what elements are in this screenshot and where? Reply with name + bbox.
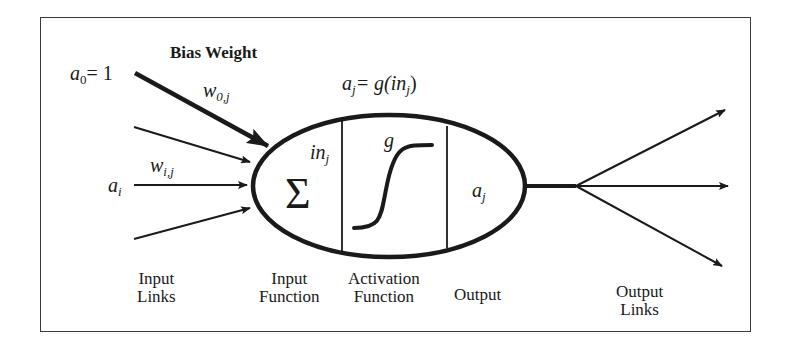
input-function-label: Input Function (259, 270, 319, 306)
activation-equation: aj= g(inj) (342, 73, 417, 100)
output-links-line-1: Output (616, 283, 663, 301)
bias-weight-sub: 0,j (216, 89, 229, 104)
input-links-line-2: Links (137, 288, 176, 306)
eq-end: ) (410, 72, 417, 94)
bias-input-var: a (70, 62, 80, 84)
activation-function-label: Activation Function (348, 270, 420, 306)
net-input-label: inj (310, 142, 329, 169)
output-link-arrow-1 (576, 110, 725, 186)
input-links-line-1: Input (137, 270, 176, 288)
input-weight-sub: i,j (163, 164, 173, 179)
bias-weight-label: w0,j (203, 80, 230, 107)
bias-weight-arrow (135, 73, 268, 146)
net-input-var: in (310, 141, 326, 163)
input-activation-var: a (108, 174, 118, 196)
input-function-line-1: Input (259, 270, 319, 288)
bias-input-eq: = 1 (87, 62, 113, 84)
activation-function-line-2: Function (348, 288, 420, 306)
input-activation-sub: i (118, 184, 122, 199)
eq-lhs-var: a (342, 72, 352, 94)
activation-function-symbol: g (384, 130, 394, 150)
sigmoid-curve-icon (354, 145, 432, 228)
input-weight-label: wi,j (150, 155, 174, 182)
input-weight-var: w (150, 154, 163, 176)
output-var: a (472, 179, 482, 201)
output-activation-label: aj (472, 180, 486, 207)
input-links-label: Input Links (137, 270, 176, 306)
input-activation-label: ai (108, 175, 122, 202)
output-links-line-2: Links (616, 301, 663, 319)
summation-icon: Σ (285, 172, 311, 216)
output-link-arrow-3 (576, 186, 722, 266)
input-link-arrow-3 (134, 208, 250, 239)
output-label: Output (454, 286, 501, 304)
output-sub: j (482, 189, 486, 204)
net-input-sub: j (326, 151, 330, 166)
input-function-line-2: Function (259, 288, 319, 306)
output-links-label: Output Links (616, 283, 663, 319)
activation-function-line-1: Activation (348, 270, 420, 288)
eq-mid: = g(in (356, 72, 407, 94)
bias-weight-title: Bias Weight (170, 44, 257, 62)
bias-input-label: a0= 1 (70, 63, 113, 90)
bias-weight-var: w (203, 79, 216, 101)
